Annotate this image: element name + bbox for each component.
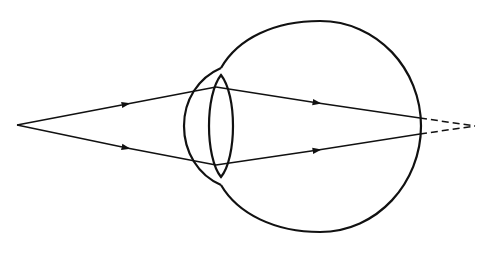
upper-ray-dashed-extension [420, 118, 475, 126]
lower-ray-outside-cont [127, 148, 216, 165]
upper-ray-outside-cont [127, 87, 216, 104]
lower-ray-dashed-extension [420, 126, 475, 134]
upper-ray-outside [17, 104, 127, 125]
lower-ray-outside [17, 125, 127, 148]
lens-outline [209, 75, 233, 177]
eyeball-outline [221, 21, 421, 232]
lower-ray-inside-cont [318, 134, 420, 150]
upper-ray-inside-cont [318, 103, 420, 118]
eye-optics-diagram [0, 0, 487, 256]
